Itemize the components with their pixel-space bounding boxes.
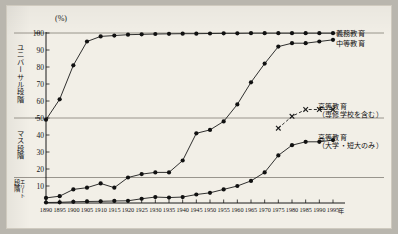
stage-label-universal: ユニバーサル段階	[17, 44, 24, 103]
series-label-higher-senshu-main: 高等教育	[318, 103, 383, 111]
series-marker-secondary	[112, 186, 116, 190]
series-marker-secondary	[222, 119, 226, 123]
series-marker-compulsory	[208, 31, 212, 35]
series-marker-compulsory	[290, 31, 294, 35]
series-marker-secondary	[85, 186, 89, 190]
series-marker-higher_univ_only	[235, 184, 239, 188]
series-marker-higher_univ_only	[304, 140, 308, 144]
series-marker-secondary	[331, 38, 335, 42]
series-marker-compulsory	[331, 31, 335, 35]
y-tick-label: 20	[37, 165, 45, 174]
series-marker-secondary	[290, 41, 294, 45]
series-marker-higher_univ_only	[71, 200, 75, 204]
x-tick-label: 1915	[108, 206, 120, 213]
series-marker-secondary	[153, 170, 157, 174]
x-tick-label: 1940	[176, 206, 188, 213]
y-tick-label: 40	[37, 131, 45, 140]
y-tick-label: 80	[37, 63, 45, 72]
series-label-higher-univ: 高等教育 （大学・短大のみ）	[318, 134, 383, 150]
x-tick-label: 1900	[67, 206, 79, 213]
x-axis-unit-label: 年	[338, 206, 344, 215]
series-marker-higher_univ_only	[85, 199, 89, 203]
series-marker-higher_univ_only	[276, 153, 280, 157]
series-marker-compulsory	[44, 118, 48, 122]
chart-plot-area: (%) 102030405060708090100 18901895190019…	[0, 0, 398, 234]
series-marker-secondary	[167, 170, 171, 174]
series-marker-secondary	[181, 158, 185, 162]
x-tick-label: 1930	[149, 206, 161, 213]
series-marker-compulsory	[85, 39, 89, 43]
series-marker-compulsory	[194, 32, 198, 36]
series-marker-secondary	[249, 80, 253, 84]
series-marker-compulsory	[249, 31, 253, 35]
stage-label-elite: 段階 エリート	[13, 179, 25, 197]
series-marker-higher_univ_only	[44, 200, 48, 204]
series-marker-secondary	[140, 172, 144, 176]
series-marker-compulsory	[112, 33, 116, 37]
x-tick-label: 1990	[313, 206, 325, 213]
series-marker-compulsory	[126, 33, 130, 37]
x-tick-label: 1925	[135, 206, 147, 213]
series-marker-secondary	[304, 41, 308, 45]
series-marker-secondary	[235, 102, 239, 106]
y-tick-label: 70	[37, 80, 45, 89]
series-marker-secondary	[208, 128, 212, 132]
x-tick-label: 1905	[81, 206, 93, 213]
series-marker-higher_with_senshu	[276, 126, 281, 131]
series-marker-higher_univ_only	[290, 143, 294, 147]
series-marker-compulsory	[263, 31, 267, 35]
series-marker-higher_univ_only	[249, 179, 253, 183]
series-marker-higher_univ_only	[99, 199, 103, 203]
series-marker-higher_univ_only	[208, 191, 212, 195]
series-marker-higher_univ_only	[153, 195, 157, 199]
stage-label-elite-b: エリート	[19, 179, 24, 197]
x-tick-label: 1985	[299, 206, 311, 213]
series-marker-compulsory	[167, 32, 171, 36]
series-marker-higher_univ_only	[126, 199, 130, 203]
x-tick-label: 1935	[163, 206, 175, 213]
series-marker-higher_with_senshu	[303, 107, 308, 112]
x-tick-label: 1890	[40, 206, 52, 213]
x-tick-label: 1950	[204, 206, 216, 213]
series-marker-compulsory	[304, 31, 308, 35]
series-marker-higher_univ_only	[112, 199, 116, 203]
y-tick-label: 30	[37, 148, 45, 157]
x-tick-label: 1920	[122, 206, 134, 213]
series-marker-higher_univ_only	[167, 195, 171, 199]
series-line-compulsory	[46, 33, 333, 120]
series-label-compulsory: 義務教育	[336, 30, 365, 38]
y-axis-labels: 102030405060708090100	[0, 0, 44, 234]
series-marker-secondary	[99, 181, 103, 185]
series-marker-secondary	[194, 131, 198, 135]
series-marker-secondary	[276, 45, 280, 49]
series-marker-higher_univ_only	[58, 200, 62, 204]
x-tick-label: 1975	[272, 206, 284, 213]
y-tick-label: 100	[33, 29, 44, 38]
series-marker-higher_univ_only	[263, 170, 267, 174]
series-marker-compulsory	[71, 63, 75, 67]
y-tick-label: 50	[37, 114, 45, 123]
series-marker-higher_univ_only	[222, 187, 226, 191]
x-tick-label: 1965	[245, 206, 257, 213]
x-tick-label: 1980	[286, 206, 298, 213]
y-tick-label: 10	[37, 182, 45, 191]
series-marker-secondary	[58, 194, 62, 198]
x-tick-label: 1945	[190, 206, 202, 213]
stage-label-mass: マス段階	[17, 130, 24, 160]
x-tick-label: 1970	[258, 206, 270, 213]
series-marker-compulsory	[276, 31, 280, 35]
series-label-higher-senshu: 高等教育 （専修学校を含む）	[318, 103, 383, 119]
series-marker-compulsory	[58, 97, 62, 101]
x-tick-label: 1955	[217, 206, 229, 213]
series-marker-secondary	[317, 39, 321, 43]
x-tick-label: 1910	[94, 206, 106, 213]
series-marker-compulsory	[222, 31, 226, 35]
x-tick-label: 1960	[231, 206, 243, 213]
series-label-higher-univ-main: 高等教育	[318, 134, 383, 142]
figure-page: (%) 102030405060708090100 18901895190019…	[0, 0, 398, 234]
series-marker-compulsory	[235, 31, 239, 35]
series-marker-compulsory	[181, 32, 185, 36]
series-marker-compulsory	[99, 34, 103, 38]
series-marker-compulsory	[317, 31, 321, 35]
series-marker-higher_univ_only	[140, 197, 144, 201]
